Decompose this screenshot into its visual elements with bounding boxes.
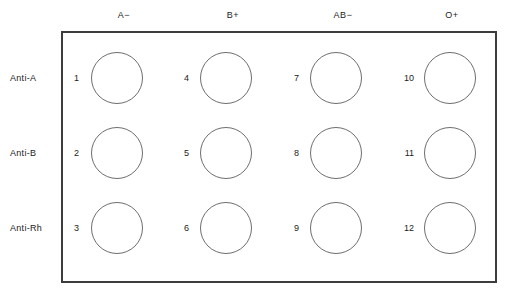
well-number: 12 (404, 223, 414, 233)
well-number: 7 (294, 73, 299, 83)
row-label-2: Anti-B (10, 148, 36, 158)
well-number: 8 (294, 148, 299, 158)
well-number: 5 (184, 148, 189, 158)
row-label-3: Anti-Rh (10, 223, 42, 233)
column-header-4: O+ (445, 10, 458, 20)
well-number: 6 (184, 223, 189, 233)
well-number: 1 (74, 73, 79, 83)
well-circle[interactable] (310, 127, 362, 179)
well-circle[interactable] (310, 202, 362, 254)
well-number: 11 (405, 148, 414, 158)
column-header-1: A− (118, 10, 130, 20)
well-circle[interactable] (91, 52, 143, 104)
well-circle[interactable] (200, 127, 252, 179)
well-number: 10 (404, 73, 414, 83)
well-circle[interactable] (200, 202, 252, 254)
well-circle[interactable] (424, 202, 476, 254)
blood-typing-plate-diagram: A−B+AB−O+ Anti-AAnti-BAnti-Rh 1471025811… (0, 0, 507, 294)
well-number: 3 (74, 223, 79, 233)
well-circle[interactable] (200, 52, 252, 104)
well-circle[interactable] (424, 127, 476, 179)
well-number: 9 (294, 223, 299, 233)
well-circle[interactable] (91, 127, 143, 179)
well-circle[interactable] (91, 202, 143, 254)
column-header-2: B+ (227, 10, 239, 20)
column-header-3: AB− (333, 10, 352, 20)
row-label-1: Anti-A (10, 73, 36, 83)
well-number: 2 (74, 148, 79, 158)
well-circle[interactable] (310, 52, 362, 104)
well-circle[interactable] (424, 52, 476, 104)
well-number: 4 (184, 73, 189, 83)
